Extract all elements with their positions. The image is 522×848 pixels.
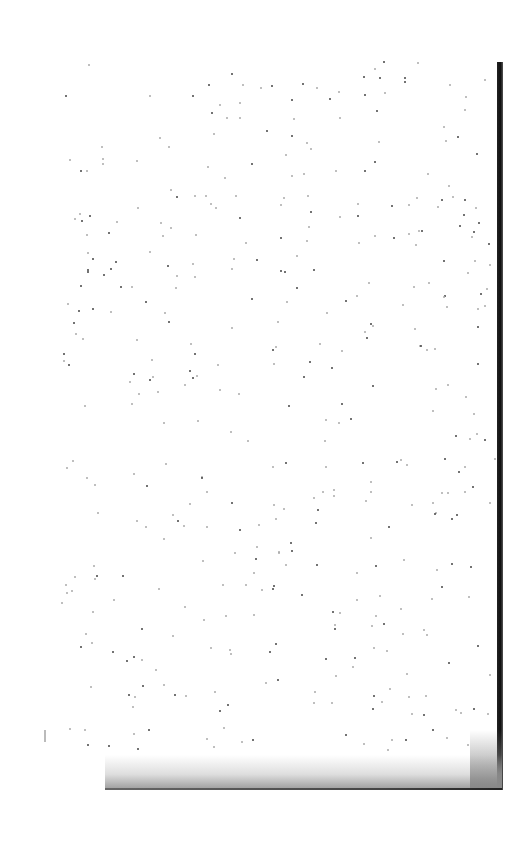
speck [69,159,71,161]
speck [84,405,86,407]
speck [241,741,243,743]
speck [66,592,68,594]
speck [411,504,413,506]
speck [122,575,124,577]
speck [229,649,231,651]
speck [85,633,87,635]
scanned-page [0,0,522,848]
speck [471,236,473,238]
speck [168,146,170,148]
speck [476,433,478,435]
speck [365,500,367,502]
speck [371,625,373,627]
speck [443,296,445,298]
speck [190,343,192,345]
speck [192,95,194,97]
speck [363,76,365,78]
speck [308,226,310,228]
page-corner-shadow [470,730,502,790]
speck [364,170,366,172]
speck [189,370,191,372]
speck [472,486,474,488]
speck [473,231,475,233]
speck [310,148,312,150]
speck [423,714,425,716]
scan-mark [44,730,46,742]
speck [417,62,419,64]
speck [447,492,449,494]
speck [66,467,68,469]
speck [381,701,383,703]
speck [451,563,453,565]
speck [373,695,375,697]
speck [239,529,241,531]
speck [393,237,395,239]
speck [291,135,293,137]
speck [148,729,150,731]
speck [63,360,65,362]
speck [103,274,105,276]
speck [463,214,465,216]
speck [444,458,446,460]
speck [457,136,459,138]
speck [448,185,450,187]
speck [368,282,370,284]
speck [285,564,287,566]
speck [470,566,472,568]
speck [164,312,166,314]
speck [163,422,165,424]
speck [61,602,63,604]
speck [251,298,253,300]
speck [302,83,304,85]
speck [126,660,128,662]
speck [316,87,318,89]
speck [341,403,343,405]
speck [473,413,475,415]
speck [451,518,453,520]
speck [133,656,135,658]
speck [210,647,212,649]
speck [477,645,479,647]
speck [283,197,285,199]
speck [86,234,88,236]
speck [468,596,470,598]
speck [428,282,430,284]
speck [494,458,496,460]
speck [446,737,448,739]
speck [189,503,191,505]
speck [325,658,327,660]
speck [285,462,287,464]
speck [455,435,457,437]
speck [137,207,139,209]
speck [426,634,428,636]
speck [432,729,434,731]
speck [309,361,311,363]
speck [72,460,74,462]
speck [196,375,198,377]
speck [92,611,94,613]
speck [65,95,67,97]
speck [334,624,336,626]
speck [225,615,227,617]
speck [443,126,445,128]
speck [81,220,83,222]
speck [203,619,205,621]
speck [247,440,249,442]
speck [206,491,208,493]
speck [441,586,443,588]
speck [313,269,315,271]
speck [486,288,488,290]
speck [373,647,375,649]
speck [141,628,143,630]
speck [93,565,95,567]
speck [478,222,480,224]
speck [418,230,420,232]
speck [277,321,279,323]
speck [333,489,335,491]
speck [291,175,293,177]
speck [172,635,174,637]
speck [303,173,305,175]
speck [197,420,199,422]
speck [133,373,135,375]
speck [432,410,434,412]
